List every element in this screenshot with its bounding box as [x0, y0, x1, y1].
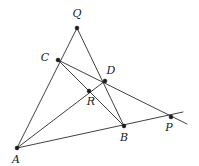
- label-q: Q: [72, 7, 81, 20]
- label-p: P: [164, 121, 173, 134]
- label-a: A: [11, 153, 20, 166]
- figure-canvas: QCDRBPA: [0, 0, 199, 166]
- line-a-r-d: [17, 81, 105, 148]
- label-r: R: [86, 95, 95, 108]
- point-a: [15, 146, 19, 150]
- point-b: [122, 124, 126, 128]
- line-a-b-p: [17, 112, 183, 148]
- label-c: C: [41, 51, 50, 64]
- line-q-b: [77, 28, 124, 126]
- line-c-d-p: [58, 60, 187, 124]
- point-q: [75, 26, 79, 30]
- label-b: B: [119, 131, 128, 144]
- point-c: [56, 58, 60, 62]
- point-d: [103, 79, 107, 83]
- labels-group: QCDRBPA: [11, 7, 173, 166]
- label-d: D: [106, 64, 116, 77]
- line-a-q: [17, 28, 77, 148]
- point-r: [87, 89, 91, 93]
- lines-group: [17, 28, 187, 148]
- point-p: [169, 115, 173, 119]
- geometry-figure: QCDRBPA: [0, 0, 199, 166]
